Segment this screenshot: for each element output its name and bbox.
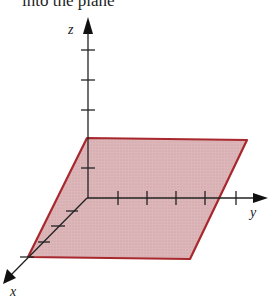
- y-axis-arrow-icon: [253, 193, 268, 203]
- y-axis-label: y: [248, 205, 257, 220]
- z-axis-label: z: [67, 22, 74, 37]
- x-axis-label: x: [9, 284, 17, 299]
- coordinate-diagram: z y x: [0, 0, 271, 299]
- z-axis-arrow-icon: [83, 17, 93, 34]
